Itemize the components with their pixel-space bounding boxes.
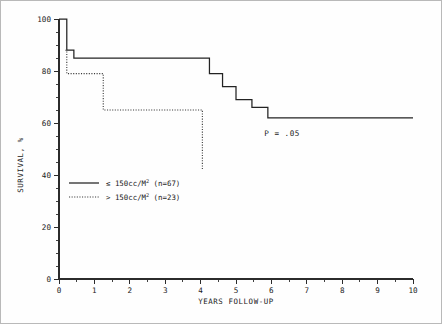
y-tick-label: 40: [42, 171, 52, 180]
y-tick-label: 20: [42, 223, 52, 232]
legend-label-high-dose: > 150cc/M2 (n=23): [106, 192, 180, 202]
survival-chart: 020406080100 012345678910 SURVIVAL, % YE…: [7, 7, 437, 319]
x-tick-label: 8: [340, 286, 345, 295]
y-tick-label: 80: [42, 67, 52, 76]
x-tick-label: 1: [92, 286, 97, 295]
legend: ≤ 150cc/M2 (n=67) > 150cc/M2 (n=23): [69, 178, 180, 202]
y-axis-tick-labels: 020406080100: [37, 15, 51, 284]
x-tick-label: 10: [408, 286, 418, 295]
y-axis-title: SURVIVAL, %: [16, 137, 25, 193]
p-value-annotation: P = .05: [264, 129, 300, 138]
x-tick-label: 2: [128, 286, 133, 295]
x-axis-title: YEARS FOLLOW-UP: [198, 297, 274, 306]
legend-label-low-dose: ≤ 150cc/M2 (n=67): [106, 178, 180, 188]
x-tick-label: 3: [163, 286, 168, 295]
survival-curve-high-dose: [65, 50, 202, 170]
y-tick-label: 0: [46, 275, 51, 284]
figure-border: 020406080100 012345678910 SURVIVAL, % YE…: [0, 0, 442, 324]
survival-curve-low-dose: [59, 19, 413, 118]
x-axis-tick-labels: 012345678910: [57, 286, 418, 295]
y-tick-label: 60: [42, 119, 52, 128]
x-tick-label: 9: [375, 286, 380, 295]
x-tick-label: 5: [234, 286, 239, 295]
x-tick-label: 0: [57, 286, 62, 295]
x-tick-label: 4: [198, 286, 203, 295]
x-axis-ticks: [59, 279, 413, 284]
x-tick-label: 7: [305, 286, 310, 295]
y-axis-ticks: [54, 19, 59, 279]
y-tick-label: 100: [37, 15, 51, 24]
chart-svg: 020406080100 012345678910 SURVIVAL, % YE…: [7, 7, 437, 319]
x-tick-label: 6: [269, 286, 274, 295]
